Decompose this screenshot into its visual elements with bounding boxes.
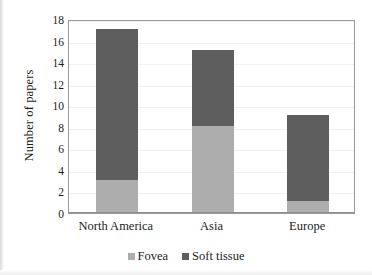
legend-swatch-icon [182, 253, 189, 260]
y-tick-label: 8 [38, 122, 64, 134]
bar-group[interactable] [96, 29, 138, 212]
y-tick-label: 0 [38, 208, 64, 220]
legend-swatch-icon [128, 253, 135, 260]
legend-item[interactable]: Soft tissue [182, 249, 244, 264]
bar-segment[interactable] [287, 201, 329, 212]
y-tick-label: 12 [38, 79, 64, 91]
plot-area [68, 20, 355, 214]
y-axis-title: Number of papers [22, 31, 37, 201]
bar-segment[interactable] [192, 126, 234, 212]
bar-group[interactable] [192, 50, 234, 212]
legend-label: Fovea [138, 249, 169, 264]
y-tick-label: 10 [38, 100, 64, 112]
y-tick-label: 2 [38, 186, 64, 198]
x-axis-label: Asia [200, 219, 223, 234]
bar-segment[interactable] [192, 50, 234, 125]
x-axis-baseline [69, 212, 354, 213]
x-axis-label: Europe [289, 219, 325, 234]
bar-segment[interactable] [96, 180, 138, 212]
legend-label: Soft tissue [192, 249, 244, 264]
y-tick-label: 4 [38, 165, 64, 177]
bar-segment[interactable] [96, 29, 138, 180]
stacked-bar-chart: Number of papers 024681012141618 North A… [0, 0, 372, 275]
y-tick-label: 16 [38, 36, 64, 48]
x-axis-category-labels: North AmericaAsiaEurope [68, 219, 355, 241]
bars-layer [69, 21, 354, 212]
y-axis-tick-labels: 024681012141618 [38, 20, 64, 214]
y-tick-label: 6 [38, 143, 64, 155]
y-tick-label: 14 [38, 57, 64, 69]
bar-segment[interactable] [287, 115, 329, 201]
legend-item[interactable]: Fovea [128, 249, 169, 264]
y-tick-label: 18 [38, 14, 64, 26]
bar-group[interactable] [287, 115, 329, 212]
x-axis-label: North America [79, 219, 154, 234]
chart-legend: FoveaSoft tissue [0, 249, 372, 264]
